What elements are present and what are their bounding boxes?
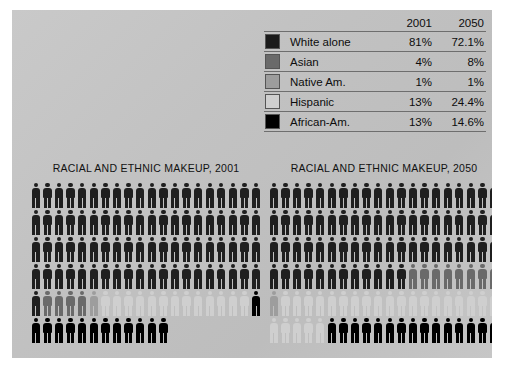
person-figure [65,182,77,209]
person-figure [407,236,419,263]
person-figure [181,263,193,290]
person-figure [280,290,292,317]
person-figure [326,209,338,236]
person-figure [76,290,88,317]
legend-row-asian: Asian 4% 8% [264,52,486,72]
person-figure [169,182,181,209]
legend-table: 2001 2050 White alone 81% 72.1% Asian [264,14,486,132]
color-swatch-icon [265,54,280,69]
person-figure [314,317,326,344]
person-figure [111,209,123,236]
person-figure [123,182,135,209]
color-swatch-icon [265,74,280,89]
person-figure [134,263,146,290]
person-figure [216,290,228,317]
person-figure [30,209,42,236]
person-figure [65,236,77,263]
person-figure [465,290,477,317]
person-figure [100,317,112,344]
person-figure [291,182,303,209]
person-figure [192,236,204,263]
legend-value-2001: 81% [388,32,432,52]
person-figure [76,209,88,236]
person-figure [227,236,239,263]
person-figure [407,263,419,290]
person-figure [53,209,65,236]
person-figure [349,236,361,263]
person-figure [169,290,181,317]
color-swatch-icon [265,34,280,49]
person-figure [303,290,315,317]
figure-grid-2050 [268,182,492,344]
person-figure [123,317,135,344]
person-figure [338,317,350,344]
legend-header-2001: 2001 [388,14,432,32]
person-figure [454,290,466,317]
legend-row-native-am: Native Am. 1% 1% [264,72,486,92]
person-figure [268,263,280,290]
person-figure [361,290,373,317]
person-figure [419,209,431,236]
person-figure [204,290,216,317]
person-figure [349,209,361,236]
person-figure [111,236,123,263]
person-figure [146,182,158,209]
person-figure [361,236,373,263]
person-figure [65,209,77,236]
color-swatch-icon [265,114,280,129]
person-figure [430,263,442,290]
legend-row-white-alone: White alone 81% 72.1% [264,32,486,52]
person-figure [372,236,384,263]
person-figure [477,317,489,344]
person-figure [477,182,489,209]
legend-header-group [287,14,388,32]
person-figure [419,290,431,317]
person-figure [42,317,54,344]
person-figure [192,263,204,290]
person-figure [158,236,170,263]
person-figure [239,263,251,290]
person-figure [123,290,135,317]
person-figure [280,236,292,263]
person-figure [134,290,146,317]
person-figure [454,317,466,344]
person-figure [430,290,442,317]
person-figure [268,209,280,236]
person-figure [192,290,204,317]
person-figure [53,182,65,209]
legend-swatch-cell [264,52,287,72]
person-figure [349,317,361,344]
figure-grid-2001 [30,182,262,344]
person-figure [338,182,350,209]
person-figure [314,182,326,209]
person-figure [280,317,292,344]
person-figure [384,236,396,263]
person-figure [407,317,419,344]
person-figure [419,317,431,344]
person-figure [465,209,477,236]
person-figure [146,263,158,290]
person-figure [396,209,408,236]
legend-table-body: 2001 2050 White alone 81% 72.1% Asian [264,14,486,132]
person-figure [268,236,280,263]
person-figure [204,263,216,290]
person-figure [158,263,170,290]
person-figure [146,290,158,317]
person-figure [88,209,100,236]
person-figure [76,263,88,290]
person-figure [326,263,338,290]
person-figure [88,263,100,290]
person-figure [419,263,431,290]
person-figure [430,182,442,209]
person-figure [42,290,54,317]
person-figure [326,290,338,317]
person-figure [303,317,315,344]
person-figure [42,263,54,290]
legend-row-hispanic: Hispanic 13% 24.4% [264,92,486,112]
person-figure [134,236,146,263]
person-figure [488,317,492,344]
person-figure [100,290,112,317]
person-figure [111,182,123,209]
legend-swatch-cell [264,92,287,112]
person-figure [65,263,77,290]
